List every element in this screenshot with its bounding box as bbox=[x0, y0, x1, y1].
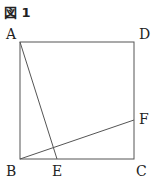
label-f: F bbox=[139, 111, 149, 127]
label-b: B bbox=[6, 163, 16, 179]
label-e: E bbox=[52, 163, 62, 179]
label-d: D bbox=[139, 26, 150, 42]
segment-ae bbox=[20, 42, 57, 159]
square-abcd bbox=[20, 42, 134, 159]
segment-bf bbox=[20, 120, 134, 159]
label-a: A bbox=[6, 26, 16, 42]
geometry-diagram bbox=[0, 0, 155, 183]
label-c: C bbox=[136, 163, 147, 179]
